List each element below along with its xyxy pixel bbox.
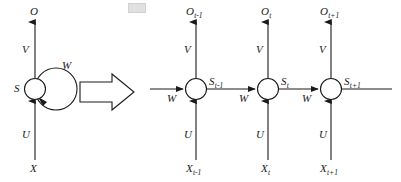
unfolded-output-weight-label-t-1: V bbox=[184, 44, 191, 55]
unfolded-output-label-t-1: Ot-1 bbox=[186, 6, 202, 17]
unfolded-recurrent-weight-label-t: W bbox=[239, 93, 248, 104]
unfolded-output-label-t-plus-1: Ot+1 bbox=[320, 6, 339, 17]
folded-input-weight-label: U bbox=[22, 129, 30, 140]
node-state-t-plus-1 bbox=[321, 79, 342, 100]
unfolded-recurrent-weight-label-t-plus-1: W bbox=[302, 93, 311, 104]
unfolded-input-label-t-1: Xt-1 bbox=[186, 163, 201, 174]
node-state-t bbox=[258, 79, 279, 100]
diagram-canvas bbox=[0, 0, 401, 182]
unfold-block-arrow bbox=[80, 74, 134, 110]
unfolded-output-weight-label-t: V bbox=[256, 44, 263, 55]
unfolded-recurrent-weight-label-t-1: W bbox=[167, 93, 176, 104]
unfolded-output-weight-label-t-plus-1: V bbox=[319, 44, 326, 55]
folded-state-label: S bbox=[14, 83, 20, 94]
folded-input-label: X bbox=[30, 163, 37, 174]
node-state-t-1 bbox=[186, 79, 207, 100]
node-state-s bbox=[25, 79, 46, 100]
unfolded-input-label-t-plus-1: Xt+1 bbox=[320, 163, 338, 174]
unfolded-state-label-t-1: St-1 bbox=[209, 76, 223, 87]
folded-output-weight-label: V bbox=[22, 44, 29, 55]
unfolded-state-label-t-plus-1: St+1 bbox=[344, 76, 360, 87]
unfolded-input-weight-label-t-1: U bbox=[184, 129, 192, 140]
unfolded-input-label-t: Xt bbox=[261, 163, 270, 174]
folded-output-label: O bbox=[30, 6, 38, 17]
unfolded-output-label-t: Ot bbox=[261, 6, 271, 17]
unfolded-input-weight-label-t: U bbox=[256, 129, 264, 140]
folded-network bbox=[25, 22, 78, 160]
unfolded-state-label-t: St bbox=[281, 76, 289, 87]
rnn-unfolding-figure: O V S W U X Ot-1 V St-1 W U Xt-1 Ot V St… bbox=[0, 0, 401, 182]
unfolded-input-weight-label-t-plus-1: U bbox=[319, 129, 327, 140]
folded-recurrent-weight-label: W bbox=[62, 60, 71, 71]
